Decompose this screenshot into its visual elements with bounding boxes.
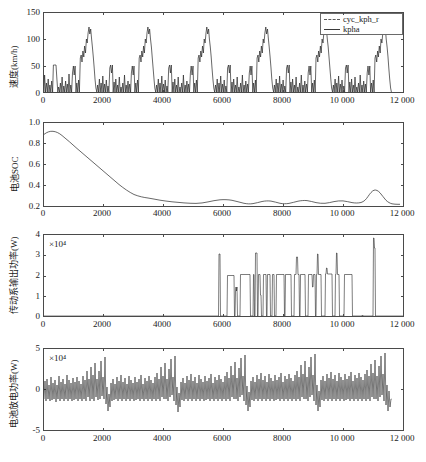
xtick-p2-4000: 4000 [150,209,174,218]
tickmark-p1-x2000t [103,12,104,15]
tickmark-p4-x6000 [223,428,224,431]
xtick-p3-8000: 8000 [270,320,294,329]
tickmark-p3-x2000t [103,234,104,237]
tickmark-p1-x10000 [343,90,344,93]
xtick-p3-2000: 2000 [90,320,114,329]
tickmark-p3-x6000 [223,314,224,317]
tickmark-p1-x4000 [163,90,164,93]
tickmark-p1-x6000t [223,12,224,15]
tickmark-p2-x4000 [163,204,164,207]
tickmark-p4-x2000t [103,348,104,351]
tickmark-p4-x4000 [163,428,164,431]
ytick-bp-5: 5 [22,344,40,353]
xtick-p1-4000: 4000 [150,96,174,105]
xtick-p3-0: 0 [31,320,55,329]
tickmark-p2-x4000t [163,122,164,125]
tickmark-p1-x2000 [103,90,104,93]
xtick-p1-6000: 6000 [210,96,234,105]
tickmark-p3-x10000 [343,314,344,317]
tickmark-p3-x4000t [163,234,164,237]
xtick-p4-6000: 6000 [210,434,234,443]
xtick-p4-4000: 4000 [150,434,174,443]
tickmark-p1-x8000t [283,12,284,15]
tickmark-p3-x2000 [103,314,104,317]
ytick-speed-50: 50 [18,62,40,71]
ylabel-driveline-power: 传动系输出功率(W) [10,237,19,315]
xtick-p2-12000: 12 000 [385,209,419,218]
xtick-p2-2000: 2000 [90,209,114,218]
tickmark-p2-x2000t [103,122,104,125]
battery-power-plot-area [44,349,403,430]
tickmark-p4-x2000 [103,428,104,431]
tickmark-p2-x10000 [343,204,344,207]
soc-plot-area [44,123,403,206]
tickmark-p3-x8000t [283,234,284,237]
ytick-dp-4: 4 [22,230,40,239]
legend-line-cyc [324,19,340,20]
tickmark-p3-x8000 [283,314,284,317]
tickmark-p1-x10000t [343,12,344,15]
tickmark-p4-x8000t [283,348,284,351]
tickmark-p1-x8000 [283,90,284,93]
tickmark-p2-x6000t [223,122,224,125]
ytick-dp-3: 3 [22,250,40,259]
xtick-p1-2000: 2000 [90,96,114,105]
legend-line-kpha [324,29,340,30]
tickmark-p1-x6000 [223,90,224,93]
tickmark-p2-x2000 [103,204,104,207]
ylabel-battery-power: 电池放电功率(W) [10,360,19,429]
ytick-soc-0.4: 0.4 [16,181,40,190]
xtick-p1-8000: 8000 [270,96,294,105]
ytick-soc-0.8: 0.8 [16,139,40,148]
tickmark-p2-x8000t [283,122,284,125]
xtick-p3-10000: 10 000 [325,320,359,329]
tickmark-p4-x10000t [343,348,344,351]
tickmark-p3-x10000t [343,234,344,237]
xtick-p1-10000: 10 000 [325,96,359,105]
legend-label-kpha: kpha [343,25,360,34]
ytick-bp-0: 0 [22,385,40,394]
xtick-p4-12000: 12 000 [385,434,419,443]
tickmark-p3-x6000t [223,234,224,237]
tickmark-p4-x10000 [343,428,344,431]
xtick-p2-6000: 6000 [210,209,234,218]
tickmark-p4-x8000 [283,428,284,431]
tickmark-p2-x10000t [343,122,344,125]
tickmark-p2-x6000 [223,204,224,207]
driveline-power-plot-area [44,235,403,316]
ytick-speed-100: 100 [18,35,40,44]
xtick-p4-10000: 10 000 [325,434,359,443]
tickmark-p1-x4000t [163,12,164,15]
xtick-p4-0: 0 [31,434,55,443]
xtick-p4-8000: 8000 [270,434,294,443]
xtick-p1-12000: 12 000 [385,96,419,105]
tickmark-p2-x8000 [283,204,284,207]
ytick-dp-1: 1 [22,292,40,301]
xtick-p3-4000: 4000 [150,320,174,329]
xtick-p4-2000: 2000 [90,434,114,443]
figure-container: 速度(km/h) 150 100 50 0 cyc_kph_r kpha 0 2… [0,0,426,462]
tickmark-p4-x4000t [163,348,164,351]
tickmark-p3-x4000 [163,314,164,317]
legend-label-cyc: cyc_kph_r [343,15,379,24]
xtick-p1-0: 0 [31,96,55,105]
ytick-soc-1.0: 1.0 [16,118,40,127]
xtick-p3-6000: 6000 [210,320,234,329]
xtick-p2-8000: 8000 [270,209,294,218]
xtick-p2-0: 0 [31,209,55,218]
xtick-p2-10000: 10 000 [325,209,359,218]
ytick-dp-2: 2 [22,271,40,280]
xtick-p3-12000: 12 000 [385,320,419,329]
ytick-soc-0.6: 0.6 [16,160,40,169]
ytick-speed-150: 150 [18,8,40,17]
tickmark-p4-x6000t [223,348,224,351]
